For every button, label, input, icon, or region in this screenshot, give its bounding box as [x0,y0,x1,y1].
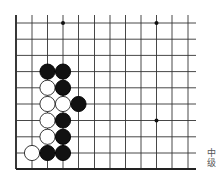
caption-line-2: 级 [207,158,216,168]
black-stone [55,129,70,144]
star-point [61,21,65,25]
white-stone [24,145,39,160]
star-point [155,119,159,123]
white-stone [55,96,70,111]
white-stone [40,96,55,111]
white-stone [40,129,55,144]
go-board [0,0,216,185]
black-stone [71,96,86,111]
caption-line-1: 中 [207,148,216,158]
black-stone [40,64,55,79]
stones [24,64,86,161]
black-stone [55,145,70,160]
black-stone [55,80,70,95]
black-stone [55,64,70,79]
star-point [155,21,159,25]
black-stone [40,145,55,160]
white-stone [40,80,55,95]
black-stone [55,113,70,128]
white-stone [40,113,55,128]
